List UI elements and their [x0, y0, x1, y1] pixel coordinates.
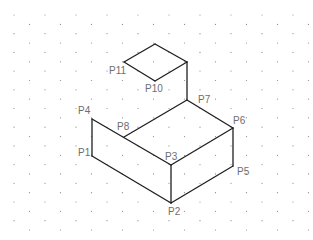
edge-p2-p5 — [171, 166, 233, 203]
grid-dot — [277, 155, 278, 156]
grid-dot — [215, 99, 216, 100]
grid-dot — [106, 71, 107, 72]
grid-dot — [308, 42, 309, 43]
grid-dot — [184, 211, 185, 212]
grid-dot — [106, 89, 107, 90]
grid-dot — [199, 183, 200, 184]
grid-dot — [106, 183, 107, 184]
grid-dot — [13, 201, 14, 202]
grid-dot — [75, 108, 76, 109]
grid-dot — [308, 80, 309, 81]
grid-dot — [230, 220, 231, 221]
grid-dot — [60, 24, 61, 25]
grid-dot — [91, 117, 92, 118]
grid-dot — [13, 183, 14, 184]
grid-dot — [13, 71, 14, 72]
grid-dot — [292, 145, 293, 146]
grid-dot — [246, 24, 247, 25]
grid-dot — [75, 89, 76, 90]
grid-dot — [199, 89, 200, 90]
grid-dot — [184, 192, 185, 193]
grid-dot — [44, 220, 45, 221]
grid-dot — [153, 136, 154, 137]
grid-dot — [215, 80, 216, 81]
grid-dot — [308, 211, 309, 212]
grid-dot — [261, 14, 262, 15]
grid-dot — [44, 52, 45, 53]
grid-dot — [308, 192, 309, 193]
grid-dot — [215, 24, 216, 25]
label-p4: P4 — [78, 105, 91, 116]
grid-dot — [184, 155, 185, 156]
edge-p10-p11 — [124, 62, 155, 81]
grid-dot — [122, 192, 123, 193]
grid-dot — [199, 71, 200, 72]
grid-dot — [91, 24, 92, 25]
grid-dot — [122, 42, 123, 43]
grid-dot — [215, 229, 216, 230]
grid-dot — [13, 33, 14, 34]
grid-dot — [75, 52, 76, 53]
edge-p12-p9 — [155, 44, 187, 62]
grid-dot — [277, 173, 278, 174]
grid-dot — [122, 80, 123, 81]
grid-dot — [215, 173, 216, 174]
grid-dot — [75, 201, 76, 202]
grid-dot — [106, 145, 107, 146]
edge-p3-p4 — [92, 119, 171, 165]
grid-dot — [215, 136, 216, 137]
grid-dot — [246, 155, 247, 156]
grid-dot — [230, 201, 231, 202]
grid-dot — [184, 136, 185, 137]
grid-dot — [246, 117, 247, 118]
grid-dot — [44, 71, 45, 72]
grid-dot — [44, 89, 45, 90]
grid-dot — [137, 201, 138, 202]
grid-dot — [91, 173, 92, 174]
grid-dot — [168, 108, 169, 109]
grid-dot — [60, 61, 61, 62]
label-p6: P6 — [233, 115, 246, 126]
edge-p9-p10 — [155, 62, 187, 81]
grid-dot — [153, 42, 154, 43]
grid-dot — [261, 220, 262, 221]
grid-dot — [13, 127, 14, 128]
grid-dot — [29, 99, 30, 100]
grid-dot — [29, 192, 30, 193]
grid-dot — [44, 145, 45, 146]
grid-dot — [277, 192, 278, 193]
grid-dot — [277, 24, 278, 25]
grid-dot — [75, 145, 76, 146]
grid-dot — [261, 183, 262, 184]
grid-dot — [246, 229, 247, 230]
grid-dot — [168, 33, 169, 34]
grid-dot — [60, 155, 61, 156]
grid-dot — [199, 145, 200, 146]
label-p7: P7 — [198, 94, 211, 105]
grid-dot — [246, 80, 247, 81]
grid-dot — [106, 33, 107, 34]
label-p8: P8 — [117, 121, 130, 132]
grid-dot — [246, 192, 247, 193]
grid-dot — [199, 52, 200, 53]
grid-dot — [277, 117, 278, 118]
grid-dot — [308, 136, 309, 137]
label-p10: P10 — [145, 83, 163, 94]
grid-dot — [13, 89, 14, 90]
grid-dot — [13, 108, 14, 109]
grid-dot — [168, 145, 169, 146]
grid-dot — [91, 192, 92, 193]
grid-dot — [153, 211, 154, 212]
grid-dot — [137, 164, 138, 165]
grid-dot — [75, 183, 76, 184]
grid-dot — [44, 164, 45, 165]
grid-dot — [29, 229, 30, 230]
grid-dot — [184, 117, 185, 118]
grid-dot — [261, 127, 262, 128]
label-p1: P1 — [78, 147, 91, 158]
grid-dot — [153, 173, 154, 174]
isometric-diagram: P1P2P3P4P5P6P7P8P10P11 — [0, 0, 313, 240]
grid-dot — [153, 117, 154, 118]
grid-dot — [29, 42, 30, 43]
grid-dot — [308, 117, 309, 118]
